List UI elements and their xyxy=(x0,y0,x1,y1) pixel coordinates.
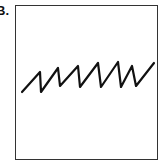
waveform-graphic xyxy=(0,0,161,164)
